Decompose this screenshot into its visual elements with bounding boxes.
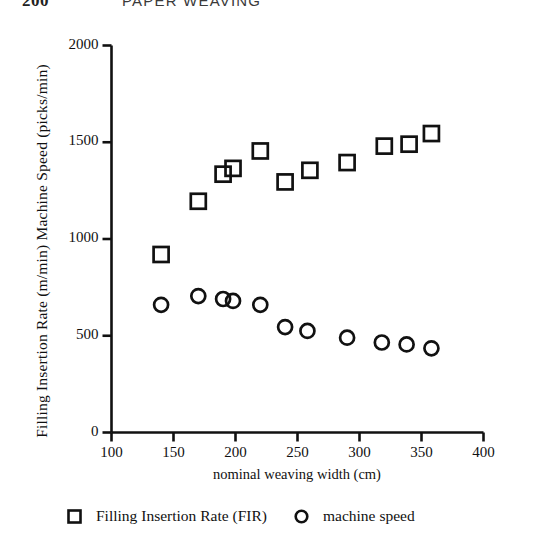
data-point-circle [253, 298, 267, 312]
y-tick-label: 1500 [51, 132, 99, 149]
legend-item-fir: Filling Insertion Rate (FIR) [66, 507, 267, 525]
data-point-square [154, 247, 169, 262]
data-point-circle [375, 336, 389, 350]
x-axis-title: nominal weaving width (cm) [111, 466, 483, 483]
chart-legend: Filling Insertion Rate (FIR) machine spe… [0, 503, 533, 543]
data-point-circle [226, 294, 240, 308]
y-tick-label: 500 [51, 326, 99, 343]
data-point-circle [278, 320, 292, 334]
legend-item-machine-speed: machine speed [293, 507, 415, 525]
data-point-square [191, 194, 206, 209]
data-point-square [424, 126, 439, 141]
x-tick-label: 400 [460, 444, 508, 461]
data-point-circle [300, 324, 314, 338]
x-tick-label: 350 [398, 444, 446, 461]
series-machine-speed [154, 289, 438, 355]
x-tick-label: 100 [88, 444, 136, 461]
x-axis-ticks [112, 433, 484, 442]
data-point-square [216, 167, 231, 182]
circle-marker-icon [293, 508, 310, 525]
data-point-circle [424, 341, 438, 355]
data-point-circle [191, 289, 205, 303]
y-tick-label: 2000 [51, 36, 99, 53]
data-point-square [278, 174, 293, 189]
data-point-circle [400, 337, 414, 351]
series-filling-insertion-rate [154, 126, 439, 262]
x-tick-label: 200 [212, 444, 260, 461]
data-point-circle [340, 331, 354, 345]
y-tick-label: 1000 [51, 229, 99, 246]
axis-lines [112, 46, 484, 433]
y-axis-title: Filling Insertion Rate (m/min) Machine S… [33, 41, 51, 461]
x-tick-label: 150 [150, 444, 198, 461]
legend-label-fir: Filling Insertion Rate (FIR) [96, 507, 267, 525]
y-tick-label: 0 [51, 423, 99, 440]
chart-plot-area: 0500100015002000 100150200250300350400 F… [0, 0, 533, 500]
data-point-square [302, 163, 317, 178]
data-point-square [402, 137, 417, 152]
data-point-circle [154, 298, 168, 312]
y-axis-ticks [103, 46, 112, 433]
data-point-square [340, 155, 355, 170]
square-marker-icon [66, 508, 83, 525]
legend-label-machine-speed: machine speed [323, 507, 415, 525]
data-point-square [226, 161, 241, 176]
x-tick-label: 250 [274, 444, 322, 461]
x-tick-label: 300 [336, 444, 384, 461]
data-point-square [253, 143, 268, 158]
data-point-square [377, 139, 392, 154]
